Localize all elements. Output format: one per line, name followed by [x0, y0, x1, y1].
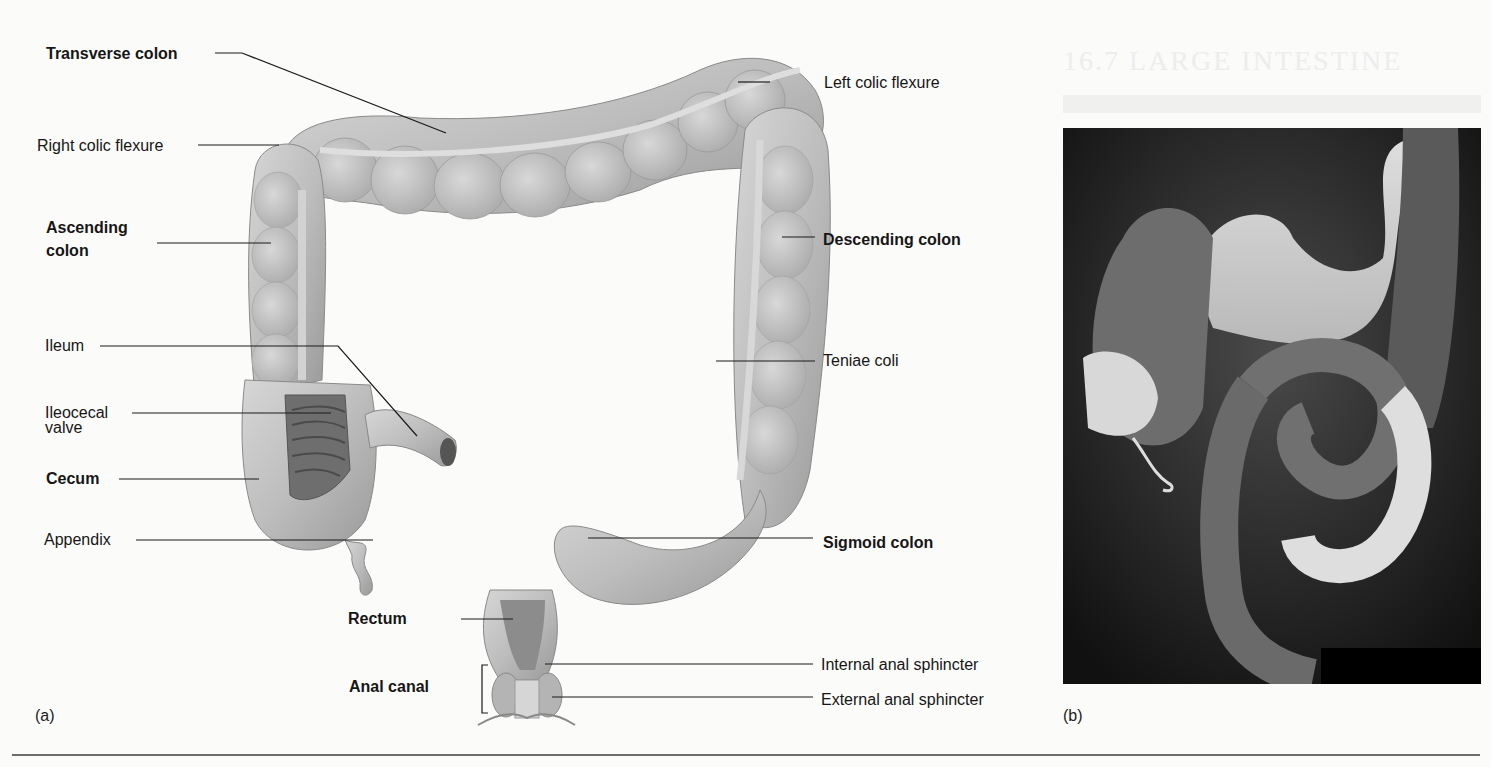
xray-image [1063, 128, 1481, 684]
xray-colon-radiograph [1063, 128, 1481, 684]
label-right-colic-flexure: Right colic flexure [37, 136, 163, 155]
background-band [1063, 95, 1481, 113]
ascending-colon-shape [249, 144, 326, 395]
anal-canal-shape [478, 673, 575, 725]
label-external-anal-sphincter: External anal sphincter [821, 690, 984, 709]
label-ileocecal-valve-line2: valve [45, 418, 82, 437]
background-heading: 16.7 LARGE INTESTINE [1063, 45, 1402, 77]
sigmoid-colon-shape [554, 490, 766, 604]
label-ileum: Ileum [45, 336, 84, 355]
bottom-rule [12, 754, 1480, 756]
cecum-shape [242, 380, 376, 550]
label-ascending-colon-line2: colon [46, 241, 89, 260]
label-appendix: Appendix [44, 530, 111, 549]
label-left-colic-flexure: Left colic flexure [824, 73, 940, 92]
label-ascending-colon-line1: Ascending [46, 218, 128, 237]
panel-b-tag: (b) [1063, 707, 1083, 725]
label-rectum: Rectum [348, 609, 407, 628]
label-internal-anal-sphincter: Internal anal sphincter [821, 655, 978, 674]
large-intestine-illustration [0, 0, 1060, 767]
label-cecum: Cecum [46, 469, 99, 488]
descending-colon-shape [734, 108, 831, 528]
label-transverse-colon: Transverse colon [46, 44, 178, 63]
label-teniae-coli: Teniae coli [823, 351, 899, 370]
label-descending-colon: Descending colon [823, 230, 961, 249]
label-sigmoid-colon: Sigmoid colon [823, 533, 933, 552]
label-anal-canal: Anal canal [349, 677, 429, 696]
figure-panel-a: Transverse colon Right colic flexure Asc… [0, 0, 1060, 767]
panel-a-tag: (a) [35, 707, 55, 725]
appendix-shape [345, 540, 372, 595]
